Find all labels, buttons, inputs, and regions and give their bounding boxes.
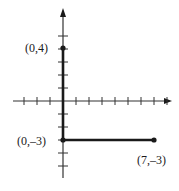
y-axis-arrow-icon — [60, 8, 66, 17]
point-0-neg3 — [60, 137, 65, 142]
label-point-0-neg3: (0,–3) — [17, 134, 46, 148]
label-point-0-4: (0,4) — [25, 41, 48, 55]
label-point-7-neg3: (7,–3) — [137, 153, 166, 167]
coordinate-graph: (0,4) (0,–3) (7,–3) — [0, 0, 179, 191]
point-7-neg3 — [151, 137, 156, 142]
point-0-4 — [60, 45, 65, 50]
x-axis-arrow-icon — [164, 98, 172, 104]
